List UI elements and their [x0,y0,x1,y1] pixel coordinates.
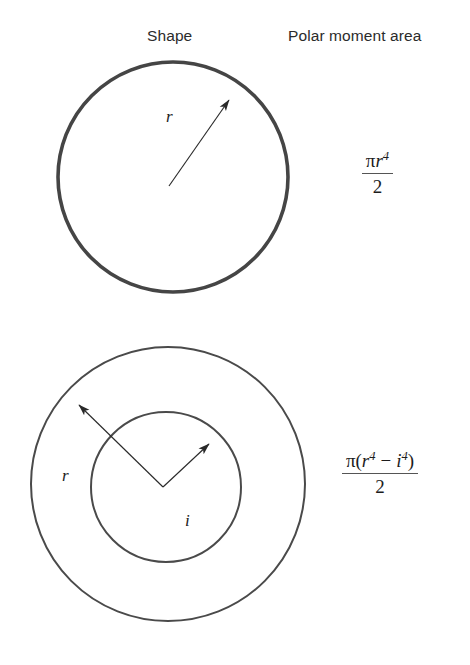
close-paren: ) [408,450,414,471]
solid-circle-radius-arrow [169,100,229,186]
annulus-inner-radius-arrow [163,444,209,487]
fraction-solid-circle: πr4 2 [362,150,393,199]
fraction-denominator: 2 [362,174,393,198]
shape-drawings [0,0,470,665]
exponent-4: 4 [383,149,389,163]
label-annulus-inner-radius: i [185,511,190,531]
exponent-4-outer: 4 [369,449,375,463]
fraction-numerator: π(r4−i4) [342,450,418,473]
annulus-inner-circle-outline [91,412,241,562]
minus-sign: − [376,450,397,471]
formula-solid-circle: πr4 2 [320,150,435,199]
label-annulus-outer-radius: r [62,466,69,486]
polar-moment-area-figure: Shape Polar moment area r r i πr4 2 π(r4… [0,0,470,665]
fraction-annulus: π(r4−i4) 2 [342,450,418,499]
pi-symbol: π [366,150,376,171]
fraction-numerator: πr4 [362,150,393,173]
formula-annulus: π(r4−i4) 2 [305,450,455,499]
label-solid-circle-radius: r [166,107,173,127]
pi-symbol: π [346,450,356,471]
variable-r: r [375,150,382,171]
fraction-denominator: 2 [342,474,418,498]
annulus-outer-circle-outline [31,347,305,621]
solid-circle-outline [58,62,288,292]
